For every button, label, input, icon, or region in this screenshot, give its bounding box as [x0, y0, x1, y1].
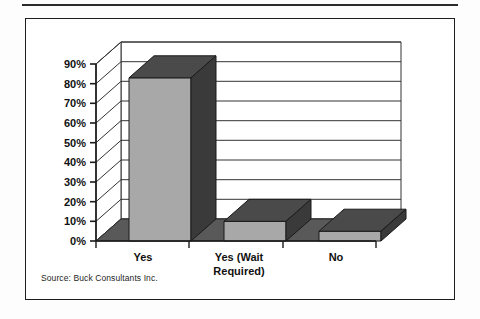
- y-axis-tick-labels: 90% 80% 70% 60% 50% 40% 30% 20% 10% 0%: [64, 58, 86, 247]
- bar-yes-wait-front: [224, 221, 286, 241]
- category-label-yes: Yes: [134, 251, 153, 263]
- bar-yes-front: [129, 78, 191, 241]
- source-note: Source: Buck Consultants Inc.: [41, 273, 158, 283]
- bar-no-front: [319, 231, 381, 241]
- ytick-label-70: 70%: [64, 97, 86, 109]
- bar-chart: 90% 80% 70% 60% 50% 40% 30% 20% 10% 0%: [26, 19, 456, 301]
- ytick-label-60: 60%: [64, 117, 86, 129]
- category-label-yes-wait-line1: Yes (Wait: [215, 251, 264, 263]
- ytick-label-90: 90%: [64, 58, 86, 70]
- top-horizontal-rule: [22, 4, 458, 6]
- x-axis: [96, 241, 376, 248]
- figure-page: 90% 80% 70% 60% 50% 40% 30% 20% 10% 0%: [0, 0, 480, 319]
- ytick-label-80: 80%: [64, 78, 86, 90]
- category-label-yes-wait-line2: Required): [213, 265, 265, 277]
- y-axis-ticks: [90, 64, 96, 241]
- category-label-no: No: [329, 251, 344, 263]
- ytick-label-40: 40%: [64, 156, 86, 168]
- ytick-label-50: 50%: [64, 137, 86, 149]
- ytick-label-10: 10%: [64, 215, 86, 227]
- figure-frame: 90% 80% 70% 60% 50% 40% 30% 20% 10% 0%: [25, 18, 455, 300]
- ytick-label-0: 0%: [70, 235, 86, 247]
- ytick-label-20: 20%: [64, 196, 86, 208]
- bar-yes[interactable]: [129, 56, 216, 241]
- x-axis-category-labels: Yes Yes (Wait Required) No: [134, 251, 344, 277]
- plot-left-depth-wall: [96, 42, 121, 241]
- bar-yes-side: [191, 56, 216, 241]
- ytick-label-30: 30%: [64, 176, 86, 188]
- chart-svg: 90% 80% 70% 60% 50% 40% 30% 20% 10% 0%: [26, 19, 456, 301]
